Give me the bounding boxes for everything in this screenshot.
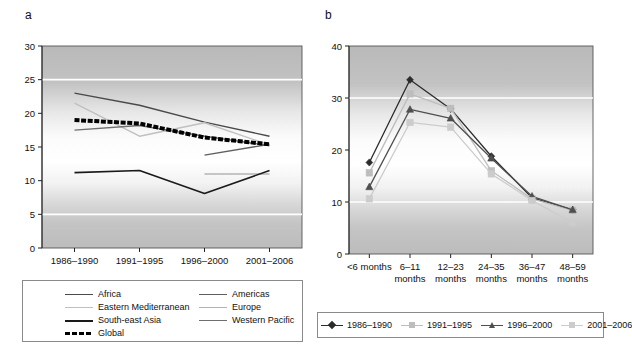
panel-a-ytick: 15 [24, 142, 35, 153]
panel-b-xtick: 36–47 [519, 261, 545, 272]
panel-a-xtick: 2001–2006 [246, 255, 294, 266]
legend-line-swatch [65, 320, 93, 322]
panel-b-ytick: 10 [331, 197, 342, 208]
panel-b-xtick: months [516, 273, 547, 284]
legend-line-swatch [199, 294, 227, 296]
panel-b-xtick: <6 months [347, 261, 392, 272]
legend-item: Europe [199, 301, 294, 314]
panel-b-plot: 010203040<6 months6–11months12–23months2… [305, 0, 611, 308]
legend-item-label: South-east Asia [98, 315, 161, 326]
panel-b-ytick: 30 [331, 93, 342, 104]
legend-column-right: AmericasEuropeWestern Pacific [199, 288, 294, 327]
legend-item-label: 1991–1995 [427, 320, 472, 331]
legend-item-label: 2001–2006 [587, 320, 632, 331]
legend-line-swatch [199, 307, 227, 309]
legend-item-label: Global [98, 328, 124, 339]
panel-a-xtick: 1996–2000 [181, 255, 229, 266]
panel-b-xtick: 12–23 [437, 261, 463, 272]
legend-item: Eastern Mediterranean [65, 301, 190, 314]
legend-item: 1986–1990 [321, 320, 392, 331]
panel-b-ytick: 20 [331, 145, 342, 156]
legend-item-label: Americas [232, 289, 270, 300]
legend-item: 1991–1995 [401, 320, 472, 331]
legend-item-label: 1996–2000 [507, 320, 552, 331]
legend-item: Western Pacific [199, 314, 294, 327]
panel-b-xtick: months [557, 273, 588, 284]
panel-a: a 0510152025301986–19901991–19951996–200… [0, 0, 305, 353]
legend-item-label: Europe [232, 302, 261, 313]
legend-marker-diamond-icon [321, 320, 343, 330]
legend-line-swatch [65, 307, 93, 309]
legend-item-label: Africa [98, 289, 121, 300]
legend-column-left: AfricaEastern MediterraneanSouth-east As… [65, 288, 190, 340]
panel-a-ytick: 10 [24, 175, 35, 186]
panel-b: b 010203040<6 months6–11months12–23month… [305, 0, 611, 353]
panel-a-ytick: 30 [24, 41, 35, 52]
legend-marker-square-icon [401, 320, 423, 330]
legend-line-swatch [199, 320, 227, 322]
legend-marker-triangle-icon [481, 320, 503, 330]
panel-a-ytick: 25 [24, 74, 35, 85]
panel-b-legend: 1986–19901991–19951996–20002001–2006 [317, 312, 604, 338]
legend-item-label: 1986–1990 [347, 320, 392, 331]
legend-item: 2001–2006 [561, 320, 632, 331]
legend-item: Global [65, 327, 190, 340]
panel-b-xtick: months [476, 273, 507, 284]
panel-b-xtick: 48–59 [559, 261, 585, 272]
legend-item: Africa [65, 288, 190, 301]
legend-item: Americas [199, 288, 294, 301]
panel-b-ytick: 0 [337, 249, 342, 260]
legend-item: South-east Asia [65, 314, 190, 327]
panel-b-xtick: 6–11 [400, 261, 420, 272]
panel-a-xtick: 1991–1995 [116, 255, 164, 266]
panel-a-xtick: 1986–1990 [51, 255, 99, 266]
legend-item: 1996–2000 [481, 320, 552, 331]
panel-a-ytick: 20 [24, 108, 35, 119]
legend-item-label: Western Pacific [232, 315, 294, 326]
panel-a-plot: 0510152025301986–19901991–19951996–20002… [0, 0, 305, 280]
legend-marker-square-icon [561, 320, 583, 330]
panel-b-xtick: months [435, 273, 466, 284]
legend-line-swatch [65, 294, 93, 296]
panel-a-legend: AfricaEastern MediterraneanSouth-east As… [22, 280, 303, 342]
panel-a-ytick: 5 [30, 209, 35, 220]
panel-a-ytick: 0 [30, 243, 35, 254]
legend-line-swatch [65, 332, 93, 336]
panel-b-ytick: 40 [331, 41, 342, 52]
panel-b-xtick: months [394, 273, 425, 284]
legend-item-label: Eastern Mediterranean [98, 302, 190, 313]
panel-b-xtick: 24–35 [478, 261, 504, 272]
